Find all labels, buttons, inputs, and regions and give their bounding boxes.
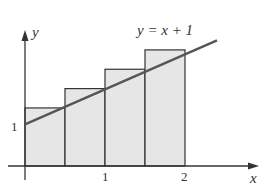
rectangle-3 xyxy=(105,69,145,166)
y-tick-label-1: 1 xyxy=(11,119,18,134)
y-axis-label: y xyxy=(30,24,39,40)
x-axis-label: x xyxy=(249,170,257,185)
function-label: y = x + 1 xyxy=(135,22,193,38)
x-axis-arrow-icon xyxy=(248,163,259,170)
riemann-sum-diagram: y x y = x + 1 1 2 1 xyxy=(0,0,265,185)
y-axis-arrow-icon xyxy=(22,30,29,41)
x-tick-label-1: 1 xyxy=(102,169,109,184)
x-tick-label-2: 2 xyxy=(181,169,188,184)
rectangles-group xyxy=(25,50,185,166)
rectangle-4 xyxy=(145,50,185,166)
rectangle-2 xyxy=(65,89,105,166)
